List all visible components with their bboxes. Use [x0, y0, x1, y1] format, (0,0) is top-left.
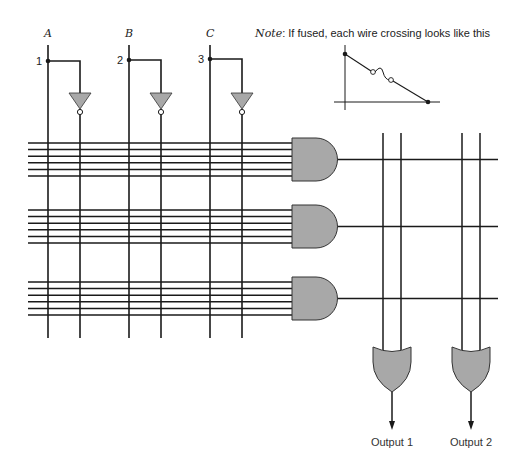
- inverter-icon: [69, 93, 91, 109]
- arrow-down-icon: [389, 421, 395, 430]
- note-prefix: Note: [254, 27, 283, 40]
- arrow-down-icon: [468, 421, 474, 430]
- or-gate-icon: [373, 347, 411, 392]
- inverter-icon: [231, 93, 253, 109]
- note-text: Note: If fused, each wire crossing looks…: [254, 27, 491, 40]
- note-body: : If fused, each wire crossing looks lik…: [282, 27, 490, 39]
- inverter-bubble-icon: [158, 109, 163, 114]
- inverter-branch-wire: [210, 59, 242, 93]
- or-gate-icon: [452, 347, 490, 392]
- input-label-b: B: [124, 27, 133, 40]
- pin-number-1: 1: [36, 55, 42, 67]
- pin-number-2: 2: [117, 54, 123, 66]
- and-gate-icon: [292, 277, 337, 320]
- output-label-1: Output 1: [371, 436, 413, 448]
- and-gate-icon: [292, 138, 338, 181]
- pin-number-3: 3: [198, 53, 204, 65]
- inverter-branch-wire: [48, 61, 80, 93]
- and-gate-icon: [292, 205, 338, 248]
- input-label-a: A: [43, 27, 52, 40]
- fuse-terminal-icon: [371, 70, 376, 75]
- pla-diagram: A1B2C3 Output 1Output 2 Note: If fused, …: [0, 0, 524, 468]
- inverter-icon: [150, 93, 172, 109]
- fuse-icon: [375, 68, 390, 80]
- fuse-terminal-icon: [389, 78, 394, 83]
- fuse-example-link: [393, 81, 428, 102]
- output-label-2: Output 2: [450, 436, 492, 448]
- junction-dot: [343, 52, 348, 57]
- fuse-example-link: [345, 54, 371, 71]
- inverter-bubble-icon: [77, 109, 82, 114]
- input-label-c: C: [206, 27, 215, 40]
- inverter-branch-wire: [129, 60, 161, 93]
- junction-dot: [426, 100, 431, 105]
- inverter-bubble-icon: [239, 109, 244, 114]
